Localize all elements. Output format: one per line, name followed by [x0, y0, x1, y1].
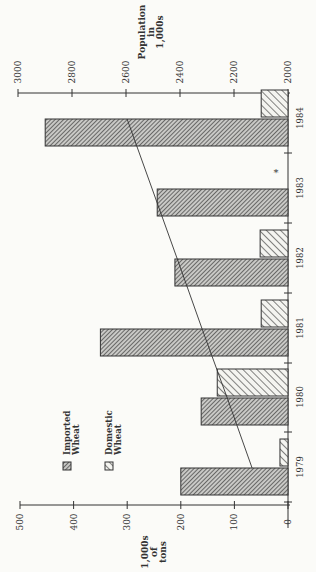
population-tick-label: 2600	[121, 60, 131, 83]
population-tick-label: 2000	[283, 60, 293, 83]
bar-domestic	[280, 439, 288, 466]
population-tick-label: 2800	[67, 60, 77, 83]
population-line	[127, 119, 252, 468]
population-tick-label: 2400	[175, 60, 185, 83]
bar-imported	[100, 329, 288, 356]
bar-domestic	[261, 300, 288, 327]
population-axis: 200022002400260028003000 Populationin1,0…	[13, 4, 293, 97]
bar-domestic	[217, 369, 288, 396]
bar-imported	[45, 119, 288, 146]
category-label: 1982	[295, 247, 305, 269]
category-label: 1984	[295, 107, 305, 129]
annotation-asterisk: *	[274, 167, 279, 178]
category-label: 1983	[295, 177, 305, 199]
legend-swatch-imported	[63, 462, 71, 470]
svg-text:tons: tons	[158, 541, 168, 563]
tons-tick-label: 400	[69, 513, 79, 530]
tons-tick-label: 100	[229, 513, 239, 530]
bar-domestic	[261, 90, 288, 117]
bar-imported	[157, 189, 288, 216]
tons-tick-label: 200	[176, 513, 186, 530]
tons-axis-label: 1,000softons	[140, 535, 168, 568]
category-label: 1981	[295, 317, 305, 339]
legend: ImportedWheatDomesticWheat	[62, 410, 123, 470]
tons-axis: 0100200300400500 1,000softons	[15, 501, 293, 569]
category-label: 1980	[295, 386, 305, 408]
bar-imported	[181, 468, 288, 495]
category-label: 1979	[295, 456, 305, 478]
tons-tick-label: 300	[122, 513, 132, 530]
bar-imported	[201, 398, 288, 425]
svg-text:Wheat: Wheat	[113, 424, 123, 456]
bars	[45, 90, 292, 502]
wheat-chart: 200022002400260028003000 Populationin1,0…	[0, 0, 316, 572]
population-axis-label: Populationin1,000s	[137, 4, 166, 59]
tons-tick-label: 500	[15, 513, 25, 530]
svg-text:Wheat: Wheat	[71, 424, 81, 456]
population-tick-label: 3000	[13, 60, 23, 83]
legend-swatch-domestic	[105, 462, 113, 470]
tons-tick-label: 0	[283, 519, 293, 525]
population-tick-label: 2200	[229, 60, 239, 83]
bar-domestic	[260, 230, 288, 257]
svg-text:1,000s: 1,000s	[155, 15, 166, 48]
bar-imported	[175, 259, 288, 286]
